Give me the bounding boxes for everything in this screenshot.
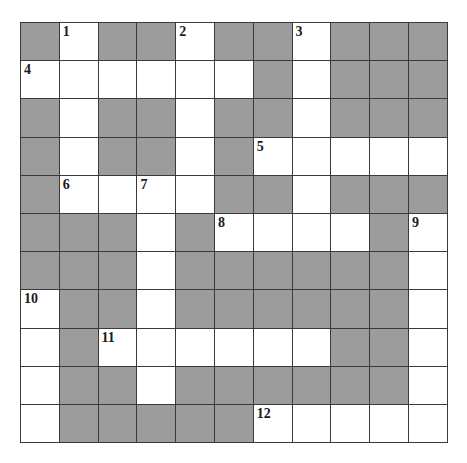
crossword-cell-open[interactable] [408,366,447,404]
crossword-cell-open[interactable]: 4 [21,61,60,99]
crossword-cell-blocked [214,404,253,442]
crossword-cell-blocked [98,213,137,251]
crossword-cell-open[interactable] [21,404,60,442]
crossword-cell-open[interactable] [292,99,331,137]
crossword-cell-open[interactable] [59,137,98,175]
crossword-cell-open[interactable] [292,213,331,251]
crossword-cell-open[interactable] [214,61,253,99]
crossword-cell-open[interactable] [292,404,331,442]
crossword-cell-open[interactable]: 2 [176,23,215,61]
crossword-cell-open[interactable] [370,404,409,442]
crossword-cell-open[interactable] [292,175,331,213]
crossword-cell-open[interactable] [21,366,60,404]
crossword-cell-open[interactable]: 6 [59,175,98,213]
crossword-cell-blocked [176,404,215,442]
crossword-cell-open[interactable] [176,137,215,175]
crossword-row: 5 [21,137,448,175]
crossword-cell-open[interactable] [253,213,292,251]
crossword-row [21,366,448,404]
crossword-clue-number: 7 [140,177,147,193]
crossword-cell-open[interactable] [176,328,215,366]
crossword-cell-open[interactable] [59,99,98,137]
crossword-cell-open[interactable] [408,404,447,442]
crossword-cell-open[interactable] [292,61,331,99]
crossword-row: 123 [21,23,448,61]
crossword-cell-blocked [59,404,98,442]
crossword-cell-blocked [137,99,176,137]
crossword-cell-open[interactable] [176,99,215,137]
crossword-cell-open[interactable]: 12 [253,404,292,442]
crossword-cell-open[interactable]: 5 [253,137,292,175]
crossword-row: 67 [21,175,448,213]
crossword-cell-blocked [214,366,253,404]
crossword-cell-open[interactable] [331,213,370,251]
crossword-cell-blocked [292,366,331,404]
crossword-cell-open[interactable]: 3 [292,23,331,61]
crossword-cell-open[interactable] [98,61,137,99]
crossword-cell-blocked [370,290,409,328]
crossword-cell-blocked [59,366,98,404]
crossword-cell-open[interactable]: 8 [214,213,253,251]
crossword-cell-open[interactable]: 10 [21,290,60,328]
crossword-grid-container: 123456789101112 [20,22,447,443]
crossword-cell-open[interactable] [137,290,176,328]
crossword-cell-open[interactable] [408,137,447,175]
crossword-cell-open[interactable] [176,175,215,213]
crossword-cell-open[interactable] [21,328,60,366]
crossword-cell-blocked [98,137,137,175]
crossword-cell-open[interactable]: 9 [408,213,447,251]
crossword-cell-blocked [408,99,447,137]
crossword-cell-blocked [59,252,98,290]
crossword-cell-blocked [137,137,176,175]
crossword-cell-blocked [176,213,215,251]
crossword-cell-open[interactable] [292,137,331,175]
crossword-cell-blocked [331,175,370,213]
crossword-cell-open[interactable] [214,328,253,366]
crossword-cell-open[interactable] [253,328,292,366]
crossword-cell-open[interactable] [408,252,447,290]
crossword-cell-blocked [176,252,215,290]
crossword-row: 10 [21,290,448,328]
crossword-cell-open[interactable] [408,290,447,328]
crossword-cell-blocked [214,23,253,61]
crossword-cell-open[interactable] [408,328,447,366]
crossword-cell-blocked [21,99,60,137]
crossword-cell-open[interactable] [331,404,370,442]
crossword-cell-open[interactable] [137,328,176,366]
crossword-cell-blocked [408,23,447,61]
crossword-cell-open[interactable] [331,137,370,175]
crossword-cell-open[interactable] [137,61,176,99]
crossword-cell-open[interactable] [137,252,176,290]
crossword-grid-body: 123456789101112 [21,23,448,443]
crossword-cell-open[interactable] [292,328,331,366]
crossword-cell-blocked [21,23,60,61]
crossword-cell-blocked [331,328,370,366]
crossword-cell-open[interactable] [98,175,137,213]
crossword-cell-blocked [214,175,253,213]
crossword-cell-open[interactable] [137,366,176,404]
crossword-cell-blocked [214,290,253,328]
crossword-cell-blocked [137,404,176,442]
crossword-clue-number: 2 [179,24,186,40]
crossword-cell-blocked [98,290,137,328]
crossword-clue-number: 9 [412,215,419,231]
crossword-cell-blocked [98,99,137,137]
crossword-row [21,252,448,290]
crossword-row: 4 [21,61,448,99]
crossword-cell-open[interactable]: 11 [98,328,137,366]
crossword-cell-blocked [59,328,98,366]
crossword-cell-open[interactable] [59,61,98,99]
crossword-cell-open[interactable] [176,61,215,99]
crossword-cell-blocked [253,366,292,404]
crossword-cell-blocked [370,213,409,251]
crossword-cell-blocked [98,366,137,404]
crossword-cell-open[interactable] [370,137,409,175]
crossword-cell-open[interactable]: 1 [59,23,98,61]
crossword-cell-blocked [59,213,98,251]
crossword-clue-number: 1 [63,24,70,40]
crossword-row [21,99,448,137]
crossword-cell-open[interactable] [137,213,176,251]
crossword-cell-blocked [98,252,137,290]
crossword-cell-open[interactable]: 7 [137,175,176,213]
crossword-clue-number: 6 [63,177,70,193]
